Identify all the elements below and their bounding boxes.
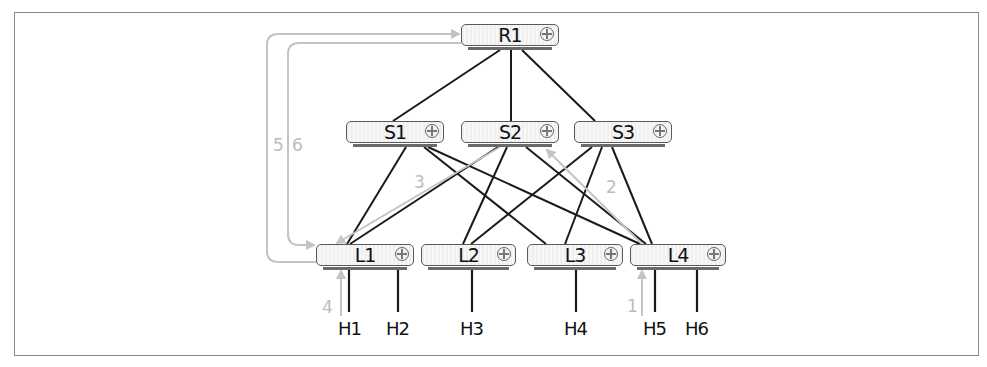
host-h4[interactable]: H4 <box>564 318 587 339</box>
router-icon <box>604 247 618 261</box>
node-base <box>353 144 437 147</box>
router-icon <box>497 247 511 261</box>
router-icon <box>540 124 554 138</box>
router-s1[interactable]: S1 <box>346 121 444 143</box>
router-l4[interactable]: L4 <box>630 244 726 266</box>
router-l3[interactable]: L3 <box>527 244 623 266</box>
node-base <box>428 267 509 270</box>
router-icon <box>395 247 409 261</box>
router-icon <box>653 124 667 138</box>
router-r1[interactable]: R1 <box>461 24 559 46</box>
host-h6[interactable]: H6 <box>685 318 708 339</box>
path-step-5: 5 <box>273 135 284 155</box>
node-base <box>468 47 552 50</box>
node-base <box>323 267 407 270</box>
node-base <box>468 144 552 147</box>
path-step-4: 4 <box>322 297 333 317</box>
router-icon <box>540 27 554 41</box>
router-s3[interactable]: S3 <box>574 121 672 143</box>
path-step-2: 2 <box>606 177 617 197</box>
router-s2[interactable]: S2 <box>461 121 559 143</box>
links-root-spine <box>393 50 595 121</box>
path-step-3: 3 <box>414 172 425 192</box>
host-h1[interactable]: H1 <box>338 318 361 339</box>
links-hosts <box>349 270 697 312</box>
router-icon <box>425 124 439 138</box>
host-h3[interactable]: H3 <box>460 318 483 339</box>
node-base <box>534 267 616 270</box>
host-h2[interactable]: H2 <box>386 318 409 339</box>
path-step-1: 1 <box>627 296 638 316</box>
path-step-6: 6 <box>292 135 303 155</box>
router-l1[interactable]: L1 <box>316 244 414 266</box>
topology-links <box>0 0 987 367</box>
router-l2[interactable]: L2 <box>421 244 516 266</box>
router-icon <box>707 247 721 261</box>
node-base <box>581 144 665 147</box>
host-h5[interactable]: H5 <box>643 318 666 339</box>
node-base <box>637 267 719 270</box>
